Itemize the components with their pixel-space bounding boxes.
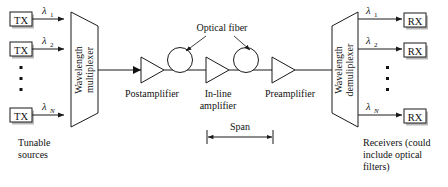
in-line-amplifier-label-line2: amplifier [200,100,237,111]
receivers-caption-line3: filters) [363,161,390,173]
rx-lambda-1: λ 1 [365,5,378,19]
svg-text:1: 1 [374,11,378,19]
diagram-text-layer: TX TX TX λ 1 λ 2 λ N Tunable sources Wav… [0,0,448,187]
svg-text:N: N [373,107,379,115]
preamplifier-label: Preamplifier [265,88,316,99]
svg-text:2: 2 [50,41,54,49]
tx-lambda-2: λ 2 [41,35,54,49]
rx-label-1: RX [408,16,423,27]
rx-lambda-n: λ N [365,101,379,115]
in-line-amplifier-label-line1: In-line [205,88,232,99]
demultiplexer-label-line1: Wavelength [333,46,344,94]
receivers-caption-line2: include optical [363,149,422,160]
tx-label-2: TX [14,45,28,56]
svg-text:λ: λ [365,101,371,112]
svg-text:λ: λ [41,35,47,46]
svg-text:λ: λ [365,5,371,16]
optical-fiber-label: Optical fiber [197,22,248,33]
receivers-caption-line1: Receivers (could [363,137,430,149]
tx-label-1: TX [14,15,28,26]
rx-lambda-2: λ 2 [365,35,378,49]
tx-lambda-n: λ N [41,101,55,115]
span-label: Span [230,121,250,132]
svg-text:N: N [49,107,55,115]
svg-text:λ: λ [365,35,371,46]
tx-lambda-1: λ 1 [41,5,54,19]
rx-label-2: RX [408,46,423,57]
svg-text:λ: λ [41,5,47,16]
tx-label-n: TX [14,111,28,122]
tunable-sources-caption-line1: Tunable [18,137,51,148]
svg-text:1: 1 [50,11,54,19]
rx-label-n: RX [408,112,423,123]
postamplifier-label: Postamplifier [125,88,180,99]
tunable-sources-caption-line2: sources [18,149,48,160]
multiplexer-label-line1: Wavelength [73,46,84,94]
multiplexer-label-line2: multiplexer [84,46,95,93]
wdm-link-diagram: TX TX TX λ 1 λ 2 λ N Tunable sources Wav… [0,0,448,187]
svg-text:λ: λ [41,101,47,112]
svg-text:2: 2 [374,41,378,49]
demultiplexer-label-line2: demuliplexer [344,43,355,96]
